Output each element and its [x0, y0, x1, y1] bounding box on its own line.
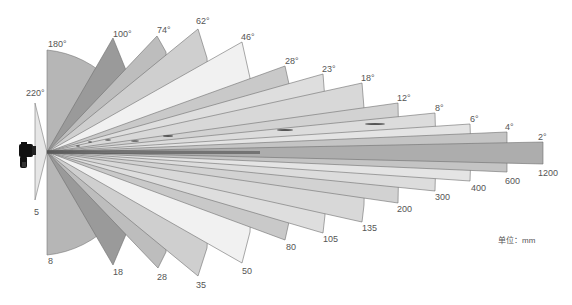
angle-label-12: 12°	[397, 94, 411, 103]
angle-label-8: 8°	[435, 104, 444, 113]
focal-label-5: 5	[34, 208, 39, 217]
focal-label-80: 80	[286, 243, 296, 252]
focal-label-135: 135	[362, 224, 377, 233]
focal-label-105: 105	[323, 235, 338, 244]
focal-label-35: 35	[196, 281, 206, 290]
angle-label-180: 180°	[48, 40, 67, 49]
focal-label-400: 400	[471, 184, 486, 193]
focal-label-600: 600	[505, 177, 520, 186]
focal-label-50: 50	[242, 267, 252, 276]
angle-label-6: 6°	[470, 115, 479, 124]
angle-label-46: 46°	[241, 33, 255, 42]
focal-label-300: 300	[435, 193, 450, 202]
angle-label-62: 62°	[196, 17, 210, 26]
angle-label-74: 74°	[157, 26, 171, 35]
focal-label-1200: 1200	[538, 169, 558, 178]
focal-label-8: 8	[48, 257, 53, 266]
camera-icon	[16, 142, 36, 170]
focal-label-200: 200	[397, 205, 412, 214]
angle-label-220: 220°	[26, 89, 45, 98]
angle-label-2: 2°	[538, 133, 547, 142]
angle-label-28: 28°	[285, 57, 299, 66]
angle-label-18: 18°	[361, 74, 375, 83]
unit-label: 单位：mm	[498, 234, 535, 245]
focal-label-18: 18	[113, 268, 123, 277]
focal-label-28: 28	[157, 273, 167, 282]
angle-label-23: 23°	[322, 65, 336, 74]
angle-label-4: 4°	[505, 123, 514, 132]
angle-label-100: 100°	[113, 30, 132, 39]
angle-of-view-diagram	[0, 0, 572, 305]
wedge-220	[35, 103, 47, 200]
